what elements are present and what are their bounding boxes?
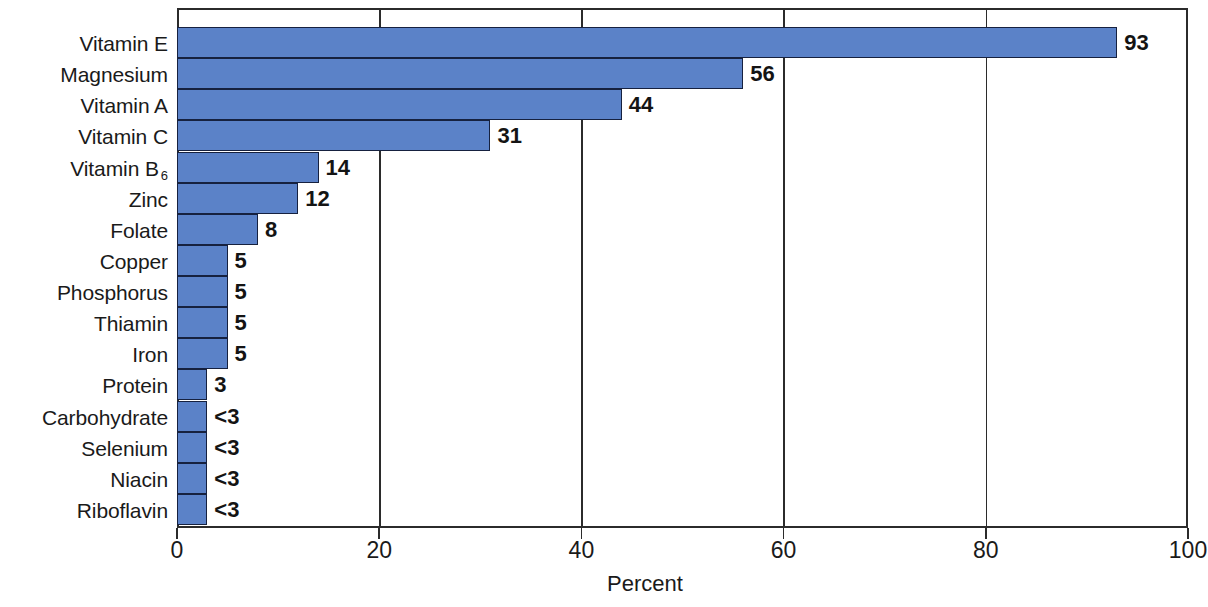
bar-value-label: 5	[228, 307, 247, 338]
bar-row: 5	[177, 276, 1188, 307]
bar-value-label: 3	[207, 369, 226, 400]
bar-value-label: <3	[207, 401, 239, 432]
bar-row: <3	[177, 494, 1188, 525]
category-label: Magnesium	[0, 59, 168, 90]
bar-row: 93	[177, 27, 1188, 58]
category-axis-labels: Vitamin EMagnesiumVitamin AVitamin CVita…	[0, 28, 168, 525]
category-label: Niacin	[0, 464, 168, 495]
bar	[177, 463, 207, 494]
bar-chart: Vitamin EMagnesiumVitamin AVitamin CVita…	[0, 0, 1208, 607]
bar-value-label: 93	[1117, 27, 1148, 58]
x-tick-label: 80	[973, 537, 999, 564]
category-label: Carbohydrate	[0, 402, 168, 433]
category-label: Vitamin B6	[0, 153, 168, 184]
category-label: Selenium	[0, 433, 168, 464]
bar-row: 44	[177, 89, 1188, 120]
bar-row: <3	[177, 463, 1188, 494]
category-label: Copper	[0, 246, 168, 277]
bar	[177, 245, 228, 276]
bar-value-label: 14	[319, 152, 350, 183]
bar-value-label: <3	[207, 432, 239, 463]
x-tick-label: 0	[171, 537, 184, 564]
bar-row: 5	[177, 307, 1188, 338]
category-label: Riboflavin	[0, 495, 168, 526]
x-axis-title: Percent	[0, 571, 1208, 597]
bar-value-label: 44	[622, 89, 653, 120]
bar-value-label: 31	[490, 120, 521, 151]
bar-row: 14	[177, 152, 1188, 183]
category-label: Vitamin A	[0, 90, 168, 121]
x-tick-label: 100	[1169, 537, 1207, 564]
bar-value-label: 56	[743, 58, 774, 89]
bar-row: <3	[177, 432, 1188, 463]
bar-row: <3	[177, 401, 1188, 432]
bar-row: 56	[177, 58, 1188, 89]
bar-row: 5	[177, 245, 1188, 276]
bar	[177, 432, 207, 463]
bar-row: 3	[177, 369, 1188, 400]
bar	[177, 27, 1117, 58]
x-tick-label: 60	[771, 537, 797, 564]
category-label: Folate	[0, 215, 168, 246]
x-tick-label: 20	[366, 537, 392, 564]
bar	[177, 276, 228, 307]
bar-row: 5	[177, 338, 1188, 369]
bar-row: 8	[177, 214, 1188, 245]
bar	[177, 401, 207, 432]
x-tick-label: 40	[569, 537, 595, 564]
bar-value-label: 5	[228, 276, 247, 307]
bar-row: 31	[177, 120, 1188, 151]
bar	[177, 214, 258, 245]
bar	[177, 152, 319, 183]
x-axis-title-text: Percent	[607, 571, 683, 596]
bar	[177, 307, 228, 338]
bar	[177, 58, 743, 89]
category-label: Zinc	[0, 184, 168, 215]
bar	[177, 494, 207, 525]
bars-layer: 935644311412855553<3<3<3<3	[177, 27, 1188, 525]
bar-value-label: <3	[207, 463, 239, 494]
category-label: Phosphorus	[0, 277, 168, 308]
bar-row: 12	[177, 183, 1188, 214]
category-label: Vitamin C	[0, 121, 168, 152]
category-label: Thiamin	[0, 308, 168, 339]
bar-value-label: 8	[258, 214, 277, 245]
bar-value-label: 12	[298, 183, 329, 214]
bar	[177, 369, 207, 400]
bar	[177, 120, 490, 151]
bar-value-label: 5	[228, 338, 247, 369]
bar-value-label: <3	[207, 494, 239, 525]
category-label: Iron	[0, 339, 168, 370]
bar	[177, 183, 298, 214]
bar	[177, 89, 622, 120]
category-label: Vitamin E	[0, 28, 168, 59]
bar	[177, 338, 228, 369]
category-label: Protein	[0, 370, 168, 401]
bar-value-label: 5	[228, 245, 247, 276]
